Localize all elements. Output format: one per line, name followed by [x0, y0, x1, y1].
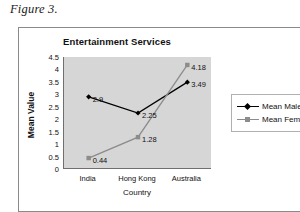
y-axis-tick: 3	[33, 90, 59, 99]
y-axis-tick: 0.5	[33, 152, 59, 161]
legend-marker-mean-male	[237, 102, 259, 111]
legend-label-mean-male: Mean Male	[262, 102, 300, 111]
figure-caption: Figure 3.	[10, 2, 58, 17]
y-axis-tick: 4.5	[33, 53, 59, 62]
data-point-label: 4.18	[191, 62, 206, 71]
legend-marker-mean-female	[237, 115, 259, 124]
data-point-label: 2.9	[93, 94, 103, 103]
data-point-label: 3.49	[191, 80, 206, 89]
y-axis-tick: 1.5	[33, 127, 59, 136]
x-axis-tick: Hong Kong	[118, 174, 156, 183]
y-axis-tick: 4	[33, 65, 59, 74]
plot-area: 2.92.253.490.441.284.18	[63, 57, 211, 169]
data-point-label: 0.44	[93, 156, 108, 165]
chart-frame: Entertainment Services Mean Value 00.511…	[18, 27, 300, 212]
x-axis-tick-labels: IndiaHong KongAustralia	[63, 174, 211, 186]
y-axis-tick: 3.5	[33, 77, 59, 86]
y-axis-tick-labels: 00.511.522.533.544.5	[33, 57, 59, 169]
x-axis-tick: India	[80, 174, 96, 183]
y-axis-tick: 2	[33, 115, 59, 124]
legend: Mean Male Mean Female	[231, 94, 300, 132]
data-point-label: 2.25	[142, 111, 157, 120]
series-lines	[64, 57, 212, 169]
y-axis-tick: 0	[33, 165, 59, 174]
data-point-label: 1.28	[142, 135, 157, 144]
legend-label-mean-female: Mean Female	[262, 115, 300, 124]
legend-item: Mean Male	[237, 100, 300, 113]
x-axis-title: Country	[63, 188, 211, 197]
y-axis-tick: 1	[33, 140, 59, 149]
x-axis-tick: Australia	[172, 174, 201, 183]
y-axis-tick: 2.5	[33, 102, 59, 111]
legend-item: Mean Female	[237, 113, 300, 126]
chart-title: Entertainment Services	[19, 36, 215, 47]
